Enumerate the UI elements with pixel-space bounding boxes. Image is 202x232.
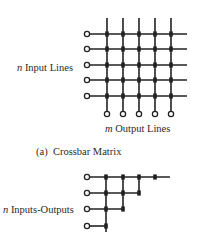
crosspoint-switch [105,62,109,67]
io-terminal [84,206,89,211]
output-lines-label: m Output Lines [105,123,170,135]
crosspoint-switch [153,93,157,98]
output-terminal [152,111,157,116]
inputs-outputs-text: Inputs-Outputs [8,204,74,215]
crosspoint-switch [153,46,157,51]
crosspoint-switch [169,62,173,67]
crosspoint-switch [121,93,125,98]
input-terminal [84,62,89,67]
output-terminal [120,111,125,116]
io-terminal [84,223,89,228]
crosspoint-switch [153,62,157,67]
crosspoint-switch [169,31,173,36]
crosspoint-switch [137,62,141,67]
crosspoint-switch [104,190,108,195]
crosspoint-switch [153,77,157,82]
triangular-matrix [84,174,170,232]
crosspoint-switch [105,93,109,98]
crosspoint-switch [121,46,125,51]
crosspoint-switch [121,77,125,82]
output-lines-text: Output Lines [113,123,171,134]
input-lines-text: Input Lines [22,62,73,73]
crosspoint-switch [105,77,109,82]
crosspoint-switch [169,77,173,82]
input-terminal [84,77,89,82]
crosspoint-switch [104,206,108,211]
switch-matrix-diagrams [0,0,202,232]
crosspoint-switch [137,31,141,36]
inputs-outputs-label: n Inputs-Outputs [3,204,74,216]
input-terminal [84,46,89,51]
crosspoint-switch [137,174,141,179]
crosspoint-switch [104,223,108,228]
input-terminal [84,31,89,36]
crosspoint-switch [137,46,141,51]
input-lines-label: n Input Lines [17,62,73,74]
crosspoint-switch [121,174,125,179]
crosspoint-switch [121,31,125,36]
io-terminal [84,174,89,179]
crosspoint-switch [137,190,141,195]
output-terminal [104,111,109,116]
output-terminal [168,111,173,116]
crosspoint-switch [121,206,125,211]
io-terminal [84,190,89,195]
diagram-canvas: n Input Lines m Output Lines (a) Crossba… [0,0,202,232]
crossbar-matrix [84,18,187,117]
crosspoint-switch [137,93,141,98]
crosspoint-switch [169,93,173,98]
crossbar-caption: (a) Crossbar Matrix [36,146,121,158]
output-terminal [136,111,141,116]
crosspoint-switch [104,174,108,179]
crosspoint-switch [153,174,157,179]
crosspoint-switch [153,31,157,36]
crosspoint-switch [169,46,173,51]
crosspoint-switch [105,31,109,36]
crosspoint-switch [105,46,109,51]
crosspoint-switch [121,62,125,67]
crosspoint-switch [121,190,125,195]
output-count-variable: m [105,123,113,134]
crosspoint-switch [137,77,141,82]
input-terminal [84,93,89,98]
